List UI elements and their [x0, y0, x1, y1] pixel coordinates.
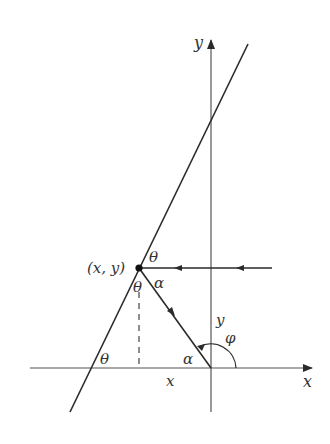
- y-segment-label: y: [215, 311, 225, 329]
- ray-arrow-left-icon: [174, 265, 182, 271]
- theta-mid-label: θ: [133, 278, 142, 296]
- alpha-bottom-label: α: [183, 350, 193, 368]
- y-axis-label: y: [193, 33, 204, 52]
- alpha-top-label: α: [154, 274, 164, 292]
- tangent-line: [70, 44, 248, 412]
- theta-top-label: θ: [149, 248, 158, 266]
- ray-arrow-right-icon: [236, 265, 244, 271]
- point-label: (x, y): [87, 259, 125, 277]
- reflection-diagram: y x (x, y) θ θ α θ α φ y x: [0, 0, 330, 444]
- point-marker: [135, 264, 142, 271]
- reflected-ray: [139, 268, 211, 368]
- theta-bottom-label: θ: [100, 350, 109, 368]
- x-segment-label: x: [166, 372, 175, 390]
- phi-label: φ: [225, 329, 236, 347]
- x-axis-label: x: [303, 372, 312, 391]
- phi-arc: [199, 344, 236, 368]
